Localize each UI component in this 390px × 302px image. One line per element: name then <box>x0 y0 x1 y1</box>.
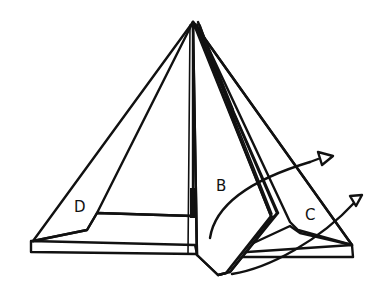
panel-d <box>33 22 193 241</box>
label-b: B <box>216 177 226 195</box>
label-c: C <box>305 206 315 224</box>
left-base-slab <box>31 241 197 254</box>
pyramid-fold-diagram: D B C <box>0 0 390 302</box>
label-d: D <box>74 198 86 216</box>
